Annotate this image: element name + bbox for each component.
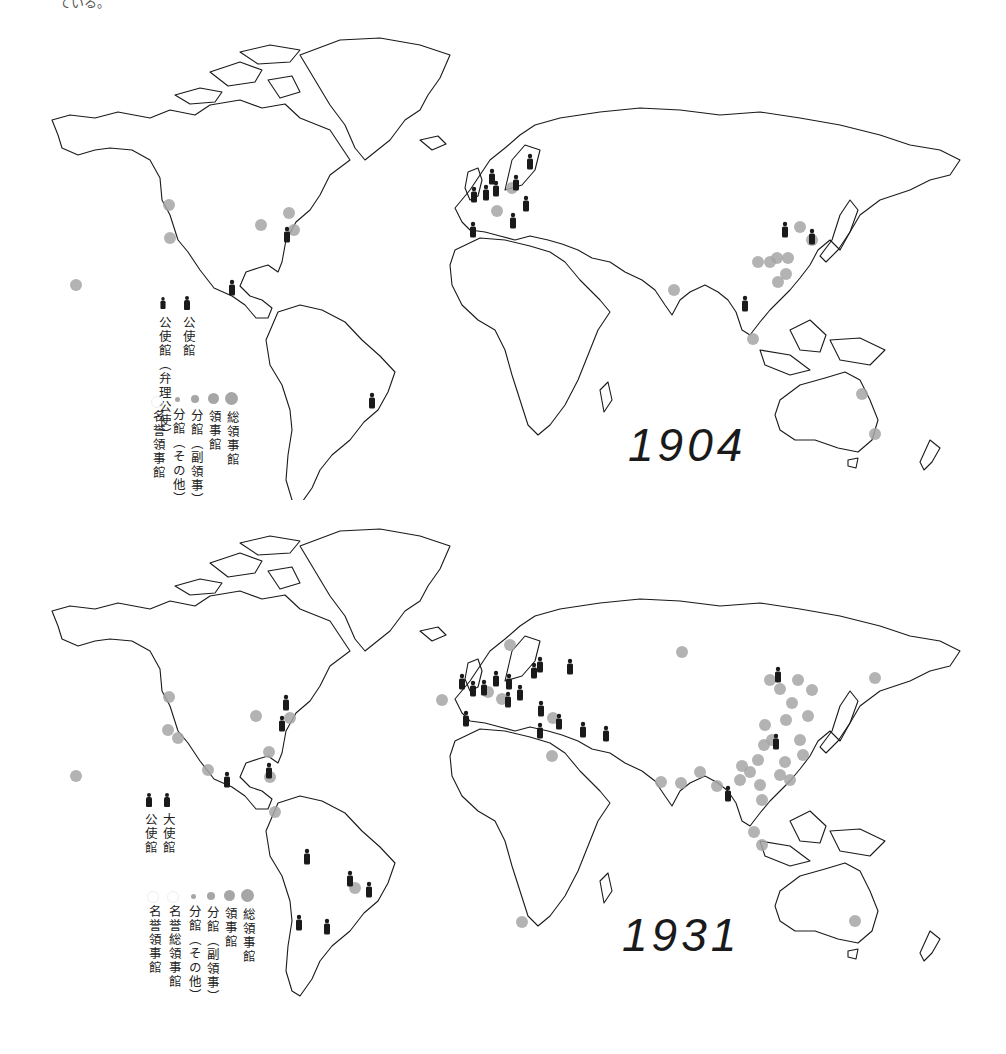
- consulate-dot-icon: [806, 684, 818, 696]
- legation-person-icon: [279, 716, 285, 732]
- legation-person-icon: [775, 667, 781, 683]
- empty-circle-icon: [147, 891, 159, 903]
- consulate-dot-icon: [802, 710, 814, 722]
- consulate-dot-icon: [162, 724, 174, 736]
- consulate-dot-icon: [694, 766, 706, 778]
- legation-person-icon: [324, 919, 330, 935]
- consulate-dot-icon: [516, 916, 528, 928]
- consulate-markers-1931: [70, 639, 881, 928]
- legation-person-icon: [538, 701, 544, 717]
- consulate-dot-icon: [263, 746, 275, 758]
- legend-item-embassy: 大使館: [160, 793, 174, 855]
- consulate-dot-icon: [780, 714, 792, 726]
- legation-person-icon: [506, 674, 512, 690]
- consulate-dot-icon: [786, 697, 798, 709]
- legend-item-honorary-consulate-general: 名誉総領事館: [166, 891, 180, 989]
- consulate-dot-icon: [756, 794, 768, 806]
- legation-person-icon: [470, 681, 476, 697]
- empty-circle-icon: [167, 891, 179, 903]
- legend-item-legation: 公使館: [142, 793, 156, 855]
- consulate-dot-icon: [794, 734, 806, 746]
- legation-person-icon: [463, 711, 469, 727]
- consulate-dot-icon: [675, 777, 687, 789]
- legation-person-icon: [493, 671, 499, 687]
- year-label-1931: 1931: [622, 908, 740, 962]
- consulate-dot-icon: [748, 826, 760, 838]
- legation-person-icon: [366, 882, 372, 898]
- consulate-dot-icon: [711, 780, 723, 792]
- legation-person-icon: [304, 849, 310, 865]
- legation-person-icon: [481, 680, 487, 696]
- legation-person-icon: [603, 726, 609, 742]
- consulate-dot-icon: [269, 806, 281, 818]
- map-panel-1931: 大使館 公使館 総領事館 領事館 分館（副領事） 分館（その他） 名誉総領事館: [0, 0, 1006, 1054]
- person-icon: [145, 793, 153, 807]
- legend-item-honorary-consulate: 名誉領事館: [146, 891, 160, 975]
- legation-person-icon: [459, 674, 465, 690]
- consulate-dot-icon: [655, 776, 667, 788]
- consulate-dot-icon: [172, 732, 184, 744]
- consulate-dot-icon: [784, 774, 796, 786]
- legation-person-icon: [296, 915, 302, 931]
- legation-person-icon: [773, 734, 779, 750]
- consulate-dot-icon: [849, 915, 861, 927]
- legation-person-icon: [567, 659, 573, 675]
- tiny-dot-icon: [191, 894, 196, 899]
- legend-item-consulate: 領事館: [222, 890, 236, 949]
- consulate-dot-icon: [70, 770, 82, 782]
- legation-person-icon: [283, 695, 289, 711]
- medium-dot-icon: [224, 890, 235, 901]
- consulate-dot-icon: [504, 639, 516, 651]
- legation-person-icon: [537, 657, 543, 673]
- person-icon: [163, 793, 171, 807]
- legation-person-icon: [505, 692, 511, 708]
- legation-person-icon: [556, 714, 562, 730]
- legation-person-icon: [531, 663, 537, 679]
- consulate-dot-icon: [163, 691, 175, 703]
- consulate-dot-icon: [869, 672, 881, 684]
- consulate-dot-icon: [436, 694, 448, 706]
- large-dot-icon: [241, 889, 254, 902]
- consulate-dot-icon: [764, 674, 776, 686]
- legation-person-icon: [347, 871, 353, 887]
- consulate-dot-icon: [676, 646, 688, 658]
- legend-item-branch-other: 分館（その他）: [186, 893, 200, 1003]
- legation-person-icon: [224, 772, 230, 788]
- legation-person-icon: [537, 723, 543, 739]
- consulate-dot-icon: [284, 712, 296, 724]
- consulate-dot-icon: [797, 749, 809, 761]
- legation-person-icon: [580, 722, 586, 738]
- consulate-dot-icon: [734, 774, 746, 786]
- legend-item-consulate-general: 総領事館: [240, 889, 254, 964]
- consulate-dot-icon: [774, 683, 786, 695]
- consulate-dot-icon: [546, 750, 558, 762]
- legation-person-icon: [517, 685, 523, 701]
- consulate-dot-icon: [756, 839, 768, 851]
- consulate-dot-icon: [792, 674, 804, 686]
- consulate-dot-icon: [250, 710, 262, 722]
- consulate-dot-icon: [758, 739, 770, 751]
- legation-person-icon: [725, 786, 731, 802]
- consulate-dot-icon: [759, 719, 771, 731]
- consulate-dot-icon: [736, 760, 748, 772]
- consulate-dot-icon: [754, 779, 766, 791]
- consulate-dot-icon: [779, 756, 791, 768]
- consulate-dot-icon: [752, 754, 764, 766]
- consulate-dot-icon: [202, 764, 214, 776]
- small-dot-icon: [207, 892, 215, 900]
- legend-item-branch-vice-consul: 分館（副領事）: [204, 892, 218, 1004]
- legation-person-icon: [266, 763, 272, 779]
